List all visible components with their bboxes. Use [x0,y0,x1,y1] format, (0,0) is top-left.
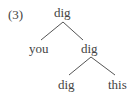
example-number: (3) [8,8,23,21]
node-root: dig [54,6,71,19]
node-mid-dig: dig [81,42,98,55]
branch-mid-left [69,57,91,75]
node-leaf-dig: dig [58,78,75,91]
branch-root-right [63,22,83,40]
node-you: you [29,42,49,55]
branch-mid-right [91,57,115,75]
node-leaf-this: this [108,78,127,91]
branch-root-left [41,22,63,40]
